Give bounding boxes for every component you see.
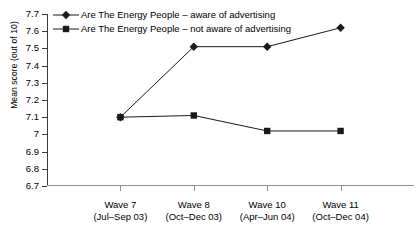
y-axis-tick: 6.7 [42, 186, 47, 187]
y-axis-tick-label: 6.8 [26, 163, 39, 174]
y-axis-title: Mean score (out of 10) [9, 5, 19, 125]
series-line [120, 115, 340, 130]
x-axis-tick-label-line2: (Oct–Dec 04) [286, 211, 396, 223]
y-axis-tick-label: 6.7 [26, 180, 39, 191]
square-marker-icon [264, 128, 270, 134]
square-marker-icon [117, 114, 123, 120]
y-axis-tick-label: 7.3 [26, 77, 39, 88]
y-axis-tick-label: 7.2 [26, 94, 39, 105]
series-line [120, 28, 340, 117]
legend-item: Are The Energy People – aware of adverti… [53, 8, 291, 22]
line-chart: Mean score (out of 10) 7.77.67.57.47.37.… [0, 0, 418, 236]
x-axis-tick-label: Wave 11(Oct–Dec 04) [286, 199, 396, 223]
legend-marker [53, 23, 81, 35]
y-axis-tick-label: 7.6 [26, 25, 39, 36]
y-axis-tick-label: 7 [34, 128, 39, 139]
legend-label: Are The Energy People – aware of adverti… [81, 9, 275, 21]
diamond-marker-icon [263, 42, 271, 50]
x-axis-tick [341, 186, 342, 191]
square-marker-icon [63, 26, 69, 32]
y-axis-tick-label: 6.9 [26, 146, 39, 157]
diamond-marker-icon [62, 11, 70, 19]
plot-area: 7.77.67.57.47.37.27.176.96.86.7 Wave 7(J… [47, 14, 414, 186]
square-marker-icon [337, 128, 343, 134]
x-axis-tick [267, 186, 268, 191]
y-axis-tick-label: 7.5 [26, 42, 39, 53]
y-axis-tick-label: 7.7 [26, 8, 39, 19]
legend-marker [53, 9, 81, 21]
series-plot [47, 14, 414, 186]
chart-legend: Are The Energy People – aware of adverti… [53, 8, 291, 36]
legend-item: Are The Energy People – not aware of adv… [53, 22, 291, 36]
x-axis-tick-label-line1: Wave 10 [249, 199, 286, 210]
x-axis-tick-label-line1: Wave 8 [178, 199, 210, 210]
y-axis-tick-label: 7.1 [26, 111, 39, 122]
x-axis-tick-label-line1: Wave 7 [104, 199, 136, 210]
x-axis-tick-label-line1: Wave 11 [322, 199, 358, 210]
y-axis-tick-label: 7.4 [26, 60, 39, 71]
square-marker-icon [191, 112, 197, 118]
x-axis-tick [194, 186, 195, 191]
x-axis-tick [120, 186, 121, 191]
legend-label: Are The Energy People – not aware of adv… [81, 23, 291, 35]
diamond-marker-icon [336, 24, 344, 32]
